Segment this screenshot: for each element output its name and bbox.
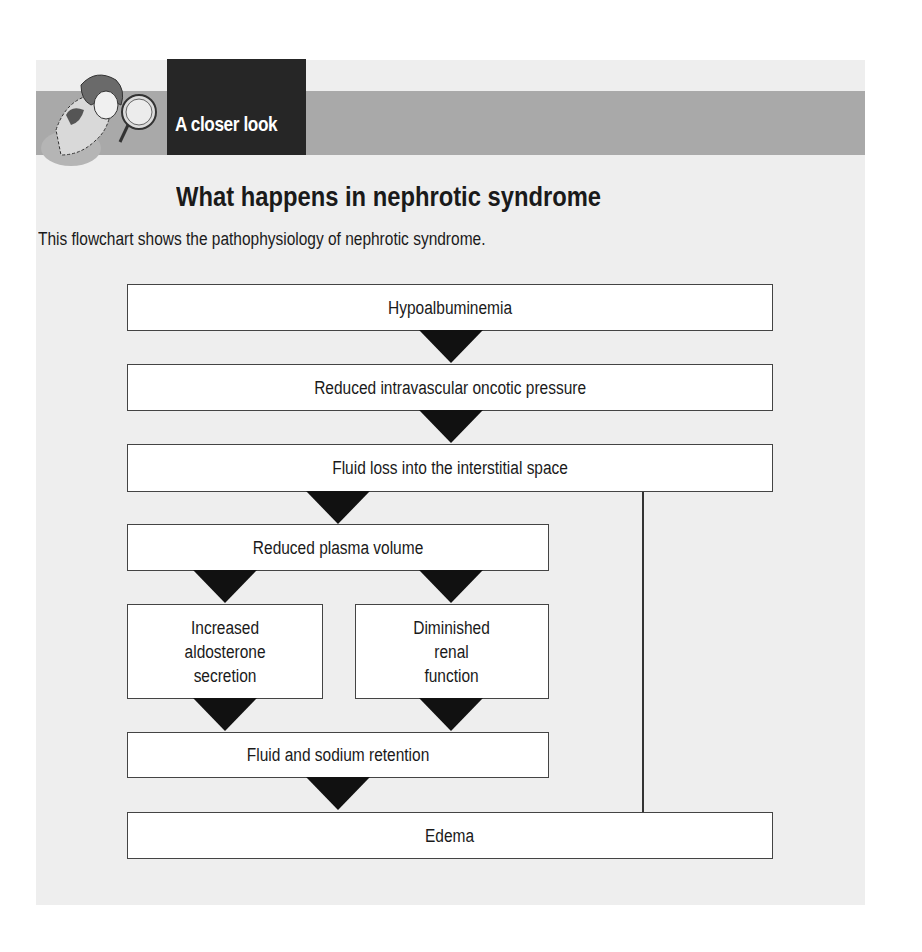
node-label: Reduced intravascular oncotic pressure xyxy=(314,376,586,400)
arrow-down-icon xyxy=(306,491,370,524)
connector-line xyxy=(642,491,644,812)
node-label: Diminished renal function xyxy=(414,616,491,688)
flow-node-edema: Edema xyxy=(127,812,773,859)
flow-node-increased-aldosterone: Increased aldosterone secretion xyxy=(127,604,323,699)
arrow-down-icon xyxy=(306,777,370,810)
flow-node-fluid-sodium-retention: Fluid and sodium retention xyxy=(127,732,549,778)
arrow-down-icon xyxy=(193,698,257,731)
node-label: Reduced plasma volume xyxy=(253,536,423,560)
section-tag xyxy=(167,59,306,155)
flow-node-fluid-loss: Fluid loss into the interstitial space xyxy=(127,444,773,492)
person-with-magnifying-glass-icon xyxy=(36,60,166,170)
flow-node-reduced-oncotic-pressure: Reduced intravascular oncotic pressure xyxy=(127,364,773,411)
node-label: Hypoalbuminemia xyxy=(388,296,512,320)
arrow-down-icon xyxy=(419,698,483,731)
section-tag-label: A closer look xyxy=(175,112,277,136)
node-label: Increased aldosterone secretion xyxy=(185,616,266,688)
node-label: Fluid loss into the interstitial space xyxy=(332,456,568,480)
arrow-down-icon xyxy=(419,570,483,603)
arrow-down-icon xyxy=(193,570,257,603)
page-subtitle: This flowchart shows the pathophysiology… xyxy=(38,229,485,250)
arrow-down-icon xyxy=(419,330,483,363)
node-label: Fluid and sodium retention xyxy=(247,743,429,767)
flow-node-diminished-renal-function: Diminished renal function xyxy=(355,604,549,699)
arrow-down-icon xyxy=(419,410,483,443)
flow-node-hypoalbuminemia: Hypoalbuminemia xyxy=(127,284,773,331)
node-label: Edema xyxy=(425,824,474,848)
flow-node-reduced-plasma-volume: Reduced plasma volume xyxy=(127,524,549,571)
page-title: What happens in nephrotic syndrome xyxy=(176,182,601,213)
